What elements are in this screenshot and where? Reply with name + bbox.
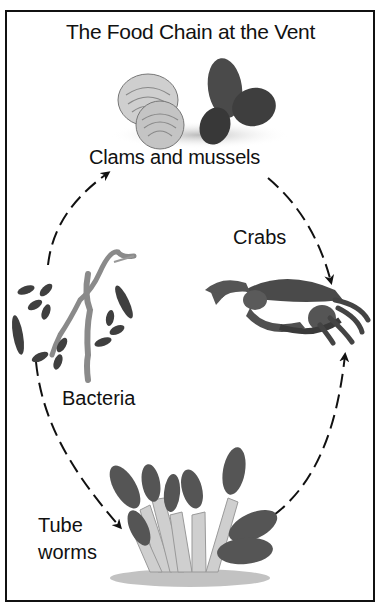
label-tube-worms: Tube worms xyxy=(38,512,97,566)
label-tube-worms-line2: worms xyxy=(38,539,97,566)
clams-mussels-illustration xyxy=(110,56,290,149)
label-tube-worms-line1: Tube xyxy=(38,512,97,539)
arrow-tubeworms-to-crabs xyxy=(274,355,345,515)
crab-illustration xyxy=(205,279,368,343)
label-clams-mussels: Clams and mussels xyxy=(89,146,260,169)
label-crabs: Crabs xyxy=(233,226,286,249)
bacteria-illustration xyxy=(10,252,137,380)
arrow-bacteria-to-clams xyxy=(48,173,108,265)
diagram-title: The Food Chain at the Vent xyxy=(0,20,381,44)
label-bacteria: Bacteria xyxy=(62,387,135,410)
tube-worms-illustration xyxy=(103,445,282,587)
